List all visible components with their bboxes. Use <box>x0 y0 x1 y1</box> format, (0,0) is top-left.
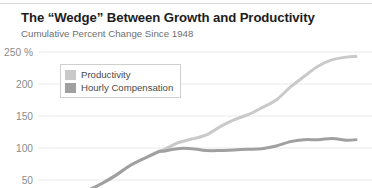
chart-figure: The “Wedge” Between Growth and Productiv… <box>0 0 372 188</box>
chart-plot-area <box>0 0 372 188</box>
series-line-hourly-compensation <box>46 138 356 188</box>
legend-swatch-productivity <box>65 70 76 80</box>
legend-label-hourly-compensation: Hourly Compensation <box>81 82 173 93</box>
y-axis-tick-250: 250 % <box>0 47 33 58</box>
y-axis-tick-150: 150 <box>0 111 33 122</box>
legend-item-hourly-compensation: Hourly Compensation <box>65 81 173 94</box>
chart-legend: Productivity Hourly Compensation <box>60 64 181 98</box>
y-axis-tick-200: 200 <box>0 79 33 90</box>
legend-swatch-hourly-compensation <box>65 83 76 93</box>
y-axis-tick-100: 100 <box>0 143 33 154</box>
y-axis-tick-50: 50 <box>0 175 33 186</box>
legend-item-productivity: Productivity <box>65 68 173 81</box>
legend-label-productivity: Productivity <box>81 69 131 80</box>
